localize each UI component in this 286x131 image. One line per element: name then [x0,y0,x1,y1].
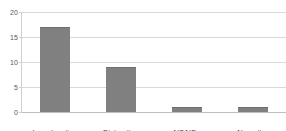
y-tick-label: 5 [0,84,18,91]
x-category-label: Ice, elevation [22,128,88,131]
y-tick-label: 0 [0,109,18,116]
y-tick-mark [19,12,22,13]
y-tick-label: 10 [0,59,18,66]
x-category-label: Distraction [88,128,154,131]
y-tick-mark [19,112,22,113]
y-tick-label: 20 [0,9,18,16]
x-category-label: NSAIDs [154,128,220,131]
gridline [22,12,286,13]
chart-title [0,21,1,22]
bar [40,27,70,112]
bar-chart: 05101520 Ice, elevationDistractionNSAIDs… [0,0,286,131]
x-category-label: Narcotics [220,128,286,131]
gridline [22,112,286,113]
bar [238,107,268,112]
y-tick-mark [19,37,22,38]
y-tick-label: 15 [0,34,18,41]
bar [172,107,202,112]
y-tick-mark [19,62,22,63]
y-tick-mark [19,87,22,88]
plot-area: 05101520 Ice, elevationDistractionNSAIDs… [22,12,286,112]
bar [106,67,136,112]
